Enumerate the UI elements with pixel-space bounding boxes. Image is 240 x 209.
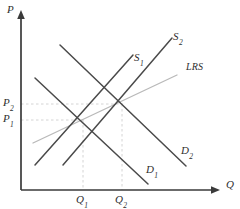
curve-label-lrs: LRS — [186, 62, 203, 72]
tick-label-p1-base: P — [3, 112, 10, 124]
curve-label-d1-base: D — [146, 163, 154, 175]
curve-s1 — [35, 55, 133, 165]
supply-demand-diagram: P Q P2 P1 Q1 Q2 S1 S2 LRS D1 D2 — [0, 0, 240, 209]
curve-label-s1: S1 — [134, 52, 144, 66]
tick-label-p2: P2 — [3, 97, 14, 111]
curve-label-d2: D2 — [181, 145, 193, 159]
curve-label-s1-sub: 1 — [140, 59, 144, 68]
y-axis-arrowhead — [17, 10, 25, 19]
tick-label-q1-sub: 1 — [84, 201, 88, 209]
curve-label-s2-sub: 2 — [179, 38, 183, 47]
tick-label-q2-sub: 2 — [123, 201, 127, 209]
x-axis-label: Q — [226, 179, 234, 190]
curve-label-d1: D1 — [146, 164, 158, 178]
tick-label-q2-base: Q — [115, 193, 123, 205]
curve-d2 — [60, 45, 186, 166]
curve-label-d2-sub: 2 — [189, 152, 193, 161]
curve-label-d2-base: D — [181, 144, 189, 156]
curve-label-s2-base: S — [173, 30, 179, 42]
curve-label-lrs-base: LRS — [186, 61, 203, 72]
curve-s2 — [63, 38, 172, 165]
curve-lrs — [33, 75, 177, 143]
tick-label-q1: Q1 — [76, 194, 88, 208]
tick-label-p1-sub: 1 — [10, 120, 14, 129]
curve-label-s1-base: S — [134, 51, 140, 63]
y-axis-label: P — [7, 4, 14, 15]
tick-label-p2-base: P — [3, 96, 10, 108]
tick-label-p1: P1 — [3, 113, 14, 127]
curve-d1 — [35, 78, 148, 184]
curve-label-s2: S2 — [173, 31, 183, 45]
tick-label-p2-sub: 2 — [10, 104, 14, 113]
tick-label-q2: Q2 — [115, 194, 127, 208]
tick-label-q1-base: Q — [76, 193, 84, 205]
curve-label-d1-sub: 1 — [154, 171, 158, 180]
diagram-canvas — [0, 0, 240, 209]
x-axis-arrowhead — [211, 186, 220, 194]
